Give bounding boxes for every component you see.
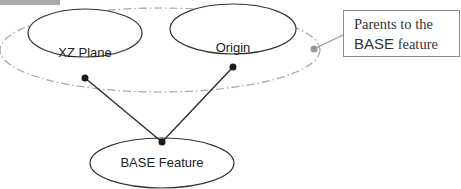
callout-anchor-dot <box>311 46 318 53</box>
parent-relationship-diagram: XZ Plane Origin BASE Feature Parents to … <box>0 0 461 189</box>
callout-connector <box>314 35 343 49</box>
callout-line-1: Parents to the <box>354 14 459 34</box>
callout-base-word: BASE <box>354 35 394 52</box>
origin-connector-dot <box>230 64 237 71</box>
xz-plane-connector-dot <box>82 75 89 82</box>
node-origin-label: Origin <box>193 40 273 55</box>
callout-line-2: BASE feature <box>354 34 459 54</box>
node-base-feature-label: BASE Feature <box>110 155 214 170</box>
callout-feature-word: feature <box>394 36 438 52</box>
callout-box: Parents to the BASE feature <box>343 10 460 57</box>
node-xz-plane-label: XZ Plane <box>45 45 125 60</box>
edge-origin-to-base <box>162 67 233 142</box>
base-connector-dot <box>159 139 166 146</box>
edge-xz-to-base <box>85 78 162 142</box>
